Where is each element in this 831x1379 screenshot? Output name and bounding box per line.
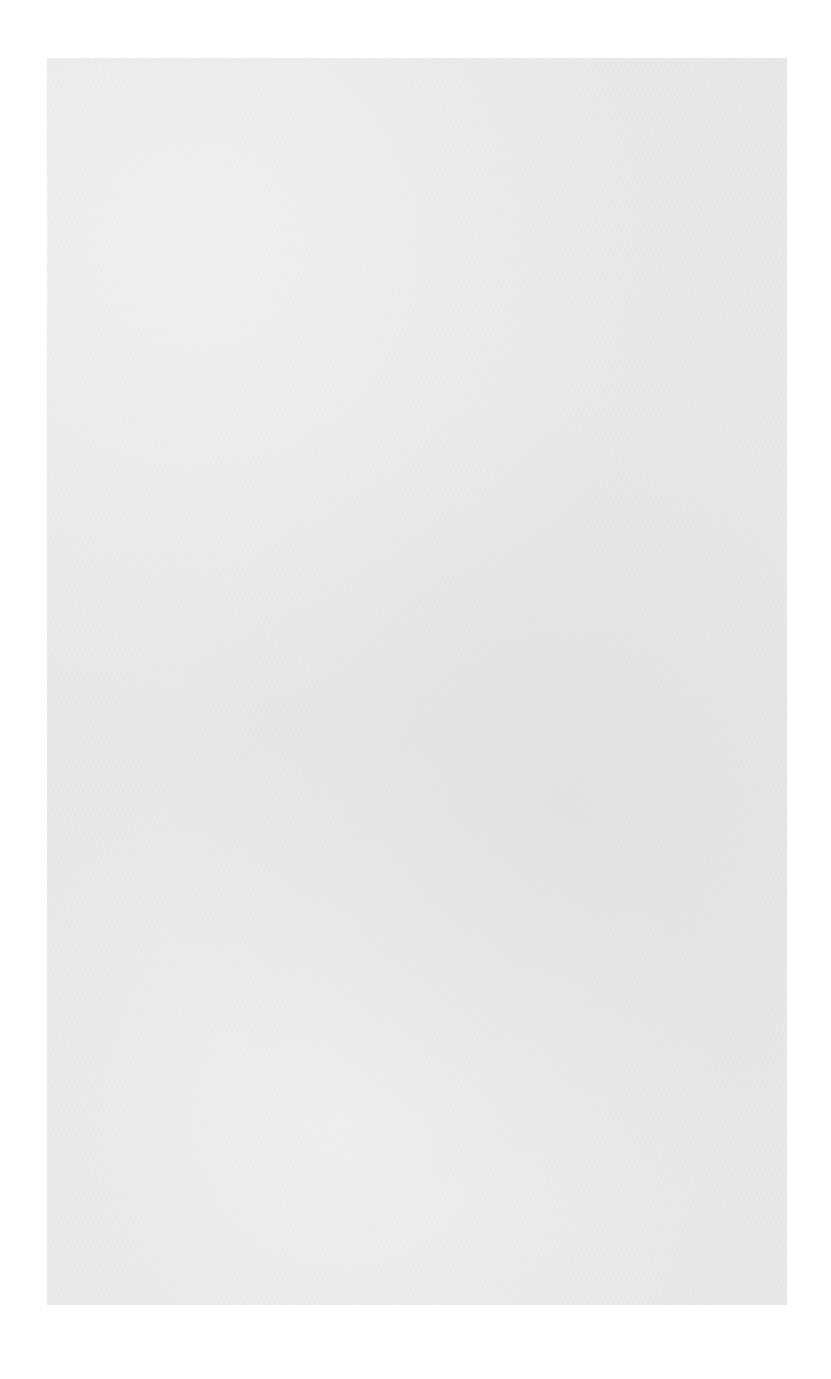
scanned-page <box>0 0 831 1379</box>
blank-paper-sheet <box>47 58 787 1305</box>
illegible-footer-text <box>285 1372 575 1379</box>
